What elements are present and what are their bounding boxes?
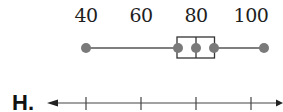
number-line [47, 97, 283, 110]
min-point [81, 43, 91, 53]
q1-point [173, 43, 183, 53]
box-plot [0, 0, 283, 112]
left-arrow-icon [47, 100, 58, 107]
answer-choice-figure: ·· 40 60 80 100 H. [0, 0, 283, 112]
median-point [191, 43, 201, 53]
max-point [259, 43, 269, 53]
option-label-h: H. [12, 92, 34, 112]
right-arrow-icon [276, 100, 283, 107]
q3-point [209, 43, 219, 53]
